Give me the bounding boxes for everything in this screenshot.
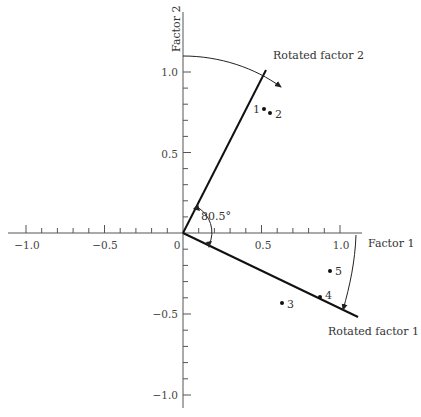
data-point-2: [268, 111, 272, 115]
point-label-5: 5: [335, 265, 342, 278]
data-points: 1 2 3 4 5: [253, 103, 342, 311]
x-tick-label: 0.5: [255, 239, 272, 251]
x-tick-labels: −1.0 −0.5 0 0.5 1.0: [14, 239, 349, 251]
rotated-factor-1-label: Rotated factor 1: [328, 325, 419, 338]
y-tick-label: −1.0: [153, 389, 179, 401]
point-label-1: 1: [253, 103, 260, 116]
x-axis-label: Factor 1: [368, 237, 414, 250]
x-tick-label: −1.0: [14, 239, 40, 251]
data-point-3: [280, 301, 284, 305]
x-tick-label: 0: [174, 239, 181, 251]
point-label-2: 2: [275, 108, 282, 121]
factor-rotation-diagram: −1.0 −0.5 0 0.5 1.0 1.0 0.5 −0.5 −1.0 Fa…: [0, 0, 421, 417]
point-label-4: 4: [325, 289, 332, 302]
data-point-5: [328, 269, 332, 273]
y-tick-label: 0.5: [161, 148, 178, 160]
y-tick-label: 1.0: [161, 66, 178, 78]
x-tick-label: 1.0: [333, 239, 350, 251]
angle-label: 80.5°: [201, 210, 231, 223]
y-axis-label: Factor 2: [170, 6, 183, 52]
y-tick-label: −0.5: [153, 308, 179, 320]
point-label-3: 3: [287, 298, 294, 311]
rotated-factor-2-label: Rotated factor 2: [273, 49, 364, 62]
x-tick-label: −0.5: [92, 239, 118, 251]
data-point-1: [262, 107, 266, 111]
data-point-4: [318, 295, 322, 299]
